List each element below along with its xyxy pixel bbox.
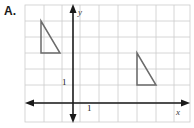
x-axis-name-label: x <box>176 108 180 117</box>
coordinate-plane-svg <box>0 0 194 128</box>
y-axis-unit-tick-label: 1 <box>62 78 67 87</box>
grid-background <box>25 5 190 122</box>
coordinate-graph-figure: A. <box>0 0 194 128</box>
x-axis-unit-tick-label: 1 <box>87 104 92 113</box>
y-axis-name-label: y <box>78 8 82 17</box>
